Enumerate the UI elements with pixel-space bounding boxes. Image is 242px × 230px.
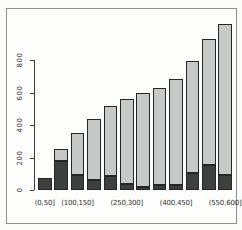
bar-3-dark-segment: [71, 175, 85, 190]
y-tick-label: 400: [15, 114, 25, 136]
y-tick-label: 0: [15, 179, 25, 201]
x-tick-label: (0,50]: [35, 199, 55, 207]
bar-3-light-segment: [71, 133, 85, 174]
bar-9-dark-segment: [169, 185, 183, 190]
bar-2-light-segment: [54, 149, 68, 161]
y-tick-label: 800: [15, 49, 25, 71]
bar-4-light-segment: [87, 119, 101, 181]
y-tick-label: 200: [15, 147, 25, 169]
x-tick-label: (550,600]: [209, 199, 242, 207]
y-axis-tick: [30, 158, 34, 159]
x-tick-label: (250,300]: [110, 199, 143, 207]
x-tick-label: (400,450]: [160, 199, 193, 207]
bar-10-dark-segment: [186, 173, 200, 190]
bar-4-dark-segment: [87, 180, 101, 190]
bar-8-dark-segment: [153, 185, 167, 190]
bar-7-dark-segment: [136, 187, 150, 190]
y-axis-tick: [30, 190, 34, 191]
bar-10-light-segment: [186, 61, 200, 173]
y-axis-line: [34, 60, 35, 190]
bar-9-light-segment: [169, 79, 183, 185]
y-axis-tick: [30, 60, 34, 61]
y-tick-label: 600: [15, 82, 25, 104]
bar-8-light-segment: [153, 88, 167, 185]
bar-5-dark-segment: [104, 176, 118, 190]
y-axis-tick: [30, 125, 34, 126]
y-axis-tick: [30, 93, 34, 94]
bar-12-dark-segment: [218, 175, 232, 190]
x-tick-label: (100,150]: [61, 199, 94, 207]
bar-12-light-segment: [218, 24, 232, 174]
bar-2-dark-segment: [54, 161, 68, 190]
bar-11-light-segment: [202, 39, 216, 165]
chart-image: 0200400600800(0,50](100,150](250,300](40…: [0, 0, 242, 230]
bar-6-dark-segment: [120, 184, 134, 190]
chart-frame: 0200400600800(0,50](100,150](250,300](40…: [6, 8, 237, 224]
bar-7-light-segment: [136, 93, 150, 186]
bar-5-light-segment: [104, 106, 118, 176]
bar-11-dark-segment: [202, 165, 216, 190]
bar-6-light-segment: [120, 99, 134, 184]
bar-1-dark-segment: [38, 178, 52, 190]
